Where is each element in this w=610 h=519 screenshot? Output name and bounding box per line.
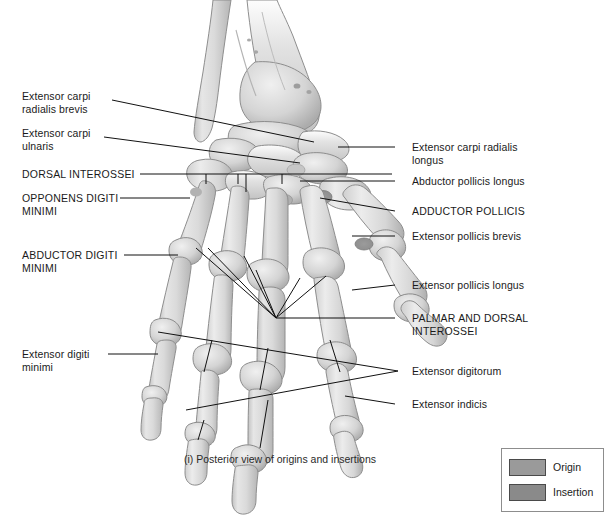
- label-abductor-digiti-minimi: ABDUCTOR DIGITI MINIMI: [22, 249, 118, 274]
- distal-phalanges: [141, 301, 447, 514]
- legend-label-insertion: Insertion: [553, 486, 593, 498]
- proximal-phalanges: [150, 247, 429, 394]
- label-dorsal-interossei: DORSAL INTEROSSEI: [22, 168, 135, 181]
- label-extensor-carpi-ulnaris: Extensor carpi ulnaris: [22, 127, 91, 152]
- label-extensor-carpi-radialis-brevis: Extensor carpi radialis brevis: [22, 90, 91, 115]
- leader-extensor-pollicis-longus: [352, 285, 395, 290]
- label-extensor-pollicis-brevis: Extensor pollicis brevis: [412, 230, 521, 243]
- legend-swatch-origin: [509, 459, 546, 476]
- label-extensor-digitorum: Extensor digitorum: [412, 365, 501, 378]
- legend-label-origin: Origin: [553, 461, 581, 473]
- legend-item-origin: Origin: [509, 458, 581, 476]
- label-opponens-digiti-minimi: OPPONENS DIGITI MINIMI: [22, 192, 118, 217]
- legend-item-insertion: Insertion: [509, 483, 593, 501]
- legend-swatch-insertion: [509, 484, 546, 501]
- label-palmar-and-dorsal-interossei: PALMAR AND DORSAL INTEROSSEI: [412, 312, 528, 337]
- label-adductor-pollicis: ADDUCTOR POLLICIS: [412, 205, 525, 218]
- anatomy-figure: Extensor carpi radialis brevis Extensor …: [0, 0, 610, 519]
- label-extensor-digiti-minimi: Extensor digiti minimi: [22, 348, 89, 373]
- label-extensor-carpi-radialis-longus: Extensor carpi radialis longus: [412, 141, 518, 166]
- label-extensor-indicis: Extensor indicis: [412, 398, 487, 411]
- label-abductor-pollicis-longus: Abductor pollicis longus: [412, 175, 525, 188]
- legend: Origin Insertion: [501, 448, 604, 512]
- label-extensor-pollicis-longus: Extensor pollicis longus: [412, 279, 524, 292]
- figure-caption: (i) Posterior view of origins and insert…: [0, 453, 560, 465]
